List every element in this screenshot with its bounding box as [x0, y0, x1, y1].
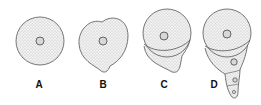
cell-b [79, 18, 128, 72]
nucleus-d-4 [232, 90, 235, 93]
nucleus-c [160, 32, 168, 40]
nucleus-d-2 [231, 59, 237, 65]
cell-a [16, 17, 64, 65]
nucleus-b [99, 37, 107, 45]
label-c: C [158, 79, 170, 90]
nucleus-d-1 [223, 30, 231, 38]
label-a: A [33, 79, 45, 90]
nucleus-a [36, 37, 44, 45]
nucleus-d-3 [233, 78, 237, 82]
label-d: D [208, 79, 220, 90]
cell-c [143, 9, 191, 72]
label-b: B [97, 79, 109, 90]
